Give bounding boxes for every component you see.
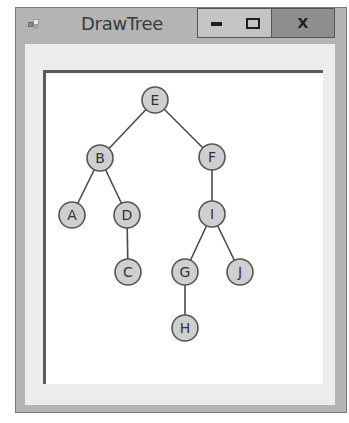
tree-node-label: I xyxy=(210,206,214,222)
tree-node-A: A xyxy=(59,202,85,228)
tree-node-E: E xyxy=(142,87,168,113)
tree-node-label: J xyxy=(237,264,242,280)
tree-node-label: E xyxy=(151,92,160,108)
tree-node-C: C xyxy=(115,259,141,285)
tree-drawing: EBFADICGJH xyxy=(0,0,349,423)
tree-node-label: H xyxy=(180,320,191,336)
tree-node-label: C xyxy=(123,264,133,280)
tree-node-label: D xyxy=(122,207,133,223)
tree-node-J: J xyxy=(227,259,253,285)
tree-node-B: B xyxy=(87,145,113,171)
tree-node-label: A xyxy=(67,207,77,223)
tree-node-F: F xyxy=(199,144,225,170)
tree-node-label: B xyxy=(95,150,105,166)
tree-node-I: I xyxy=(199,201,225,227)
tree-node-label: G xyxy=(180,264,191,280)
tree-node-label: F xyxy=(208,149,216,165)
tree-node-D: D xyxy=(114,202,140,228)
tree-node-H: H xyxy=(172,315,198,341)
tree-node-G: G xyxy=(172,259,198,285)
